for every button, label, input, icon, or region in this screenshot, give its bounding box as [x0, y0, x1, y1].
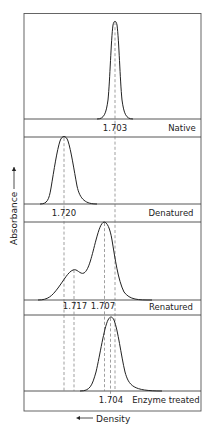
enzyme-curve — [80, 317, 162, 391]
panel-label-denatured: Denatured — [148, 208, 193, 218]
y-axis-label-text: Absorbance — [9, 191, 19, 245]
x-axis-arrowhead-icon — [76, 416, 80, 420]
panel-label-enzyme-treated: Enzyme treated — [132, 395, 200, 405]
x-axis-label: Density — [76, 414, 131, 424]
panel-label-native: Native — [168, 123, 196, 133]
y-axis-arrowhead-icon — [12, 167, 16, 171]
peak-label-1703: 1.703 — [103, 123, 127, 133]
x-axis-label-text: Density — [96, 414, 131, 424]
density-profile-chart: 1.703 1.720 1.717 1.707 1.704 Native Den… — [0, 0, 215, 434]
peak-label-1704: 1.704 — [99, 395, 123, 405]
peak-label-1707: 1.707 — [91, 301, 115, 311]
denatured-curve — [40, 137, 97, 205]
curves — [38, 21, 162, 391]
y-axis-label: Absorbance — [9, 167, 19, 245]
peak-label-1720: 1.720 — [52, 208, 76, 218]
renatured-curve — [38, 222, 152, 300]
panel-label-renatured: Renatured — [149, 302, 193, 312]
peak-label-1717: 1.717 — [63, 301, 87, 311]
